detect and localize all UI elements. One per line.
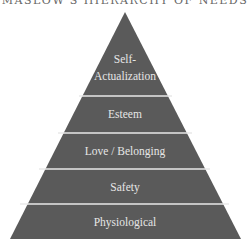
level-love-belonging: Love / Belonging — [85, 145, 166, 158]
pyramid-diagram: Self- Actualization Esteem Love / Belong… — [0, 0, 250, 242]
level-self-actualization-line1: Self- — [114, 53, 137, 65]
level-safety: Safety — [110, 181, 140, 194]
pyramid-shape — [10, 12, 241, 239]
level-self-actualization-line2: Actualization — [94, 70, 156, 82]
level-esteem: Esteem — [108, 108, 142, 120]
level-physiological: Physiological — [94, 216, 157, 229]
